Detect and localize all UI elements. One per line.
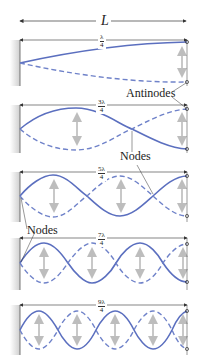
nodes-label-lower: Nodes <box>27 224 58 236</box>
fraction-numerator: 5λ <box>98 165 105 173</box>
antinodes-label: Antinodes <box>126 87 175 99</box>
fraction-numerator: λ <box>100 33 103 41</box>
fraction-numerator: 7λ <box>98 231 105 239</box>
panel-4-length-fraction: 7λ 4 <box>96 232 107 247</box>
fraction-numerator: 3λ <box>98 98 105 106</box>
fraction-denominator: 4 <box>98 239 105 247</box>
length-L-label: L <box>99 14 111 28</box>
panel-5-length-fraction: 9λ 4 <box>96 299 107 314</box>
fraction-denominator: 4 <box>98 173 105 181</box>
fraction-denominator: 4 <box>100 41 104 49</box>
panel-2-length-fraction: 3λ 4 <box>96 99 107 114</box>
fraction-denominator: 4 <box>98 306 105 314</box>
nodes-label-upper: Nodes <box>120 150 151 162</box>
fraction-denominator: 4 <box>98 106 105 114</box>
panel-3-length-fraction: 5λ 4 <box>96 166 107 181</box>
panel-1-length-fraction: λ 4 <box>98 34 106 49</box>
fraction-numerator: 9λ <box>98 298 105 306</box>
